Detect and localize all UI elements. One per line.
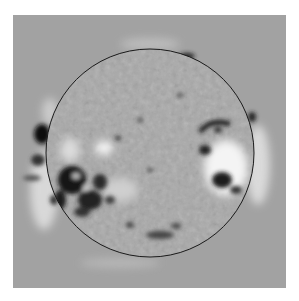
solar-image — [0, 0, 299, 301]
